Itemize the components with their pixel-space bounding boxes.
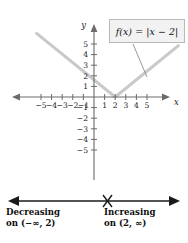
x-axis-tick-labels: −5 −4 −3 −2 −1 1 2 3 4 5 xyxy=(35,101,149,110)
y-tick-label: 2 xyxy=(83,72,88,81)
y-tick-label: −2 xyxy=(77,114,88,123)
y-axis-tick-labels-positive: 1 2 3 4 5 xyxy=(83,40,88,91)
y-axis-tick-labels-negative: −1 −2 −3 −4 −5 xyxy=(77,103,88,154)
y-tick-label: 1 xyxy=(83,82,88,91)
y-tick-label: 4 xyxy=(83,50,88,59)
increasing-annotation: Increasing on (2, ∞) xyxy=(104,207,155,229)
left-arrowhead xyxy=(8,196,19,206)
x-tick-label: 2 xyxy=(113,101,118,110)
x-tick-label: 4 xyxy=(134,101,139,110)
x-axis-label: x xyxy=(174,97,179,107)
x-tick-label: 3 xyxy=(123,101,128,110)
x-axis xyxy=(12,94,170,101)
decreasing-interval: on (−∞, 2) xyxy=(6,218,60,229)
y-axis xyxy=(91,24,98,180)
y-tick-label: −5 xyxy=(77,146,88,155)
increasing-interval: on (2, ∞) xyxy=(104,218,155,229)
function-label-box: f(x) = |x − 2| xyxy=(109,19,185,43)
function-label-text: f(x) = |x − 2| xyxy=(116,26,179,37)
callout-leader-line xyxy=(133,44,147,77)
figure-root: −5 −4 −3 −2 −1 1 2 3 4 5 1 2 3 4 5 −1 −2… xyxy=(0,0,188,243)
x-tick-label: 1 xyxy=(102,101,107,110)
y-tick-label: −1 xyxy=(77,103,88,112)
y-tick-label: −4 xyxy=(77,135,88,144)
increasing-label: Increasing xyxy=(104,207,155,218)
y-axis-label: y xyxy=(80,20,86,30)
y-tick-label: 5 xyxy=(83,40,88,49)
decreasing-annotation: Decreasing on (−∞, 2) xyxy=(6,207,60,229)
decreasing-label: Decreasing xyxy=(6,207,60,218)
y-tick-label: −3 xyxy=(77,125,88,134)
right-arrowhead xyxy=(169,196,180,206)
y-tick-label: 3 xyxy=(83,61,88,70)
x-tick-label: 5 xyxy=(145,101,150,110)
